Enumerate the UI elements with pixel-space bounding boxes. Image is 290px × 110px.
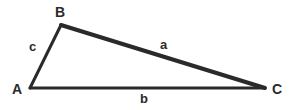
vertex-label-a: A bbox=[12, 82, 22, 96]
vertex-label-b: B bbox=[55, 5, 65, 19]
side-label-a: a bbox=[160, 38, 167, 51]
triangle-diagram: A B C a b c bbox=[0, 0, 290, 110]
triangle-side-c bbox=[30, 25, 61, 88]
side-label-b: b bbox=[140, 92, 148, 105]
vertex-label-c: C bbox=[272, 82, 282, 96]
side-label-c: c bbox=[29, 40, 36, 53]
triangle-side-a bbox=[61, 25, 265, 88]
